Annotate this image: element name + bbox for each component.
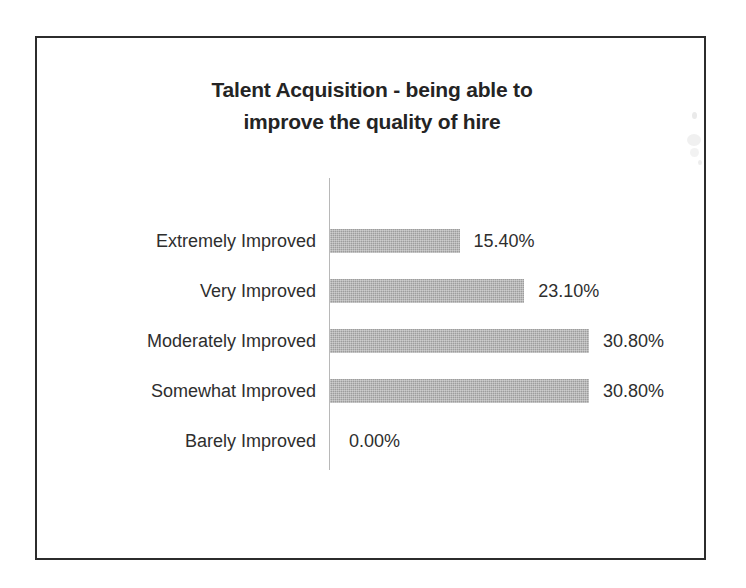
bar-track: 30.80%: [330, 316, 706, 366]
value-label: 15.40%: [474, 216, 535, 266]
bar: [330, 229, 460, 253]
category-label: Extremely Improved: [35, 216, 316, 266]
bar-row: Barely Improved 0.00%: [35, 416, 706, 466]
value-label: 23.10%: [538, 266, 599, 316]
bar-track: 30.80%: [330, 366, 706, 416]
bar: [330, 379, 589, 403]
category-label: Barely Improved: [35, 416, 316, 466]
bar-row: Very Improved 23.10%: [35, 266, 706, 316]
bar-track: 0.00%: [330, 416, 706, 466]
category-label: Very Improved: [35, 266, 316, 316]
bar-row: Moderately Improved 30.80%: [35, 316, 706, 366]
chart-title-line-2: improve the quality of hire: [110, 106, 634, 138]
chart-title-line-1: Talent Acquisition - being able to: [110, 74, 634, 106]
bar-track: 15.40%: [330, 216, 706, 266]
scan-speck-icon: [687, 134, 701, 146]
scan-speck-icon: [692, 112, 697, 119]
bar-row: Somewhat Improved 30.80%: [35, 366, 706, 416]
bar: [330, 279, 524, 303]
value-label: 30.80%: [603, 366, 664, 416]
value-label: 0.00%: [349, 416, 400, 466]
chart-figure: Talent Acquisition - being able to impro…: [0, 0, 746, 588]
bar-track: 23.10%: [330, 266, 706, 316]
plot-area: Extremely Improved 15.40% Very Improved …: [35, 170, 706, 490]
scan-speck-icon: [690, 148, 699, 157]
bar: [330, 329, 589, 353]
category-label: Moderately Improved: [35, 316, 316, 366]
value-label: 30.80%: [603, 316, 664, 366]
chart-title: Talent Acquisition - being able to impro…: [110, 74, 634, 138]
category-label: Somewhat Improved: [35, 366, 316, 416]
bar-row: Extremely Improved 15.40%: [35, 216, 706, 266]
scan-speck-icon: [698, 160, 702, 165]
